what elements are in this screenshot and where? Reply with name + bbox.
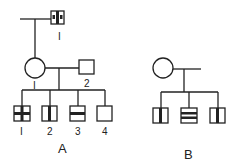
pedigree-a-label: A [58, 141, 67, 156]
child-a3-label: 3 [75, 126, 81, 137]
child-a4-square [97, 106, 112, 121]
child-a3-square [70, 106, 85, 121]
pedigree-b [153, 58, 225, 123]
child-a1-square [14, 106, 30, 121]
grandfather-square [51, 11, 64, 24]
child-a2-label: 2 [47, 126, 53, 137]
child-b2-square [181, 108, 197, 123]
mother-label: I [33, 80, 36, 91]
child-b3-square [210, 108, 225, 123]
father-square [79, 60, 94, 74]
child-b1-square [153, 108, 168, 123]
pedigree-diagram: I I 2 I 2 3 4 A B [0, 0, 239, 168]
pedigree-a [14, 11, 112, 121]
child-a1-label: I [20, 126, 23, 137]
pedigree-b-label: B [184, 147, 193, 162]
grandfather-label: I [58, 31, 61, 42]
father-label: 2 [84, 78, 90, 89]
child-a4-label: 4 [102, 126, 108, 137]
child-a2-square [42, 106, 57, 121]
mother-circle [25, 58, 45, 78]
mother-b-circle [153, 58, 173, 78]
